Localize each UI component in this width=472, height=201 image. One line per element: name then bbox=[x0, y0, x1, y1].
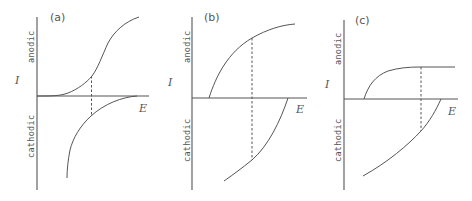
panel-b-potential-symbol: E bbox=[295, 103, 304, 116]
panel-c-cathodic-label: cathodic bbox=[333, 119, 343, 162]
panel-a-cathodic-curve bbox=[67, 96, 137, 178]
panel-c-anodic-curve bbox=[364, 67, 455, 99]
panel-a-anodic-curve bbox=[37, 17, 139, 96]
panel-b: (b) anodic cathodic I E bbox=[167, 11, 307, 190]
polarization-diagram: (a) anodic cathodic I E (b) anodic catho… bbox=[0, 0, 472, 201]
panel-b-anodic-label: anodic bbox=[182, 30, 192, 63]
panel-a-cathodic-label: cathodic bbox=[26, 115, 36, 158]
panel-a-label: (a) bbox=[50, 11, 65, 24]
panel-b-label: (b) bbox=[204, 11, 220, 24]
panel-b-cathodic-label: cathodic bbox=[182, 119, 192, 162]
panel-a-current-symbol: I bbox=[14, 74, 20, 87]
panel-b-cathodic-curve bbox=[224, 98, 288, 181]
panel-b-current-symbol: I bbox=[167, 76, 173, 89]
panel-a-anodic-label: anodic bbox=[26, 30, 36, 63]
panel-c-cathodic-curve bbox=[363, 99, 441, 176]
panel-c-current-symbol: I bbox=[324, 78, 330, 91]
panel-c-potential-symbol: E bbox=[447, 105, 456, 118]
panel-c-anodic-label: anodic bbox=[333, 32, 343, 65]
panel-a: (a) anodic cathodic I E bbox=[14, 11, 149, 190]
panel-c-label: (c) bbox=[355, 14, 370, 27]
panel-a-potential-symbol: E bbox=[138, 102, 147, 115]
panel-c: (c) anodic cathodic I E bbox=[324, 14, 458, 190]
